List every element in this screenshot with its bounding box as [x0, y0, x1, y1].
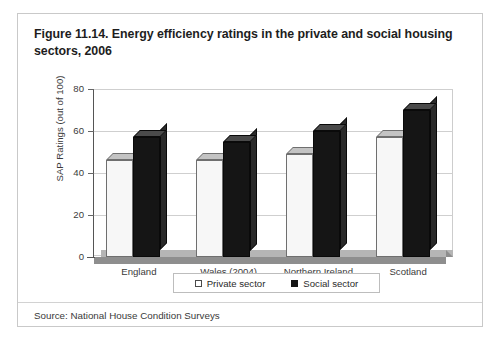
bar-face — [106, 160, 133, 257]
x-axis-line — [87, 257, 95, 258]
plot-floor-front — [94, 257, 446, 264]
chart-legend: Private sectorSocial sector — [173, 273, 380, 293]
bar-northern-ireland-private-sector — [286, 154, 313, 257]
legend-item: Private sector — [195, 278, 266, 289]
legend-label: Private sector — [207, 278, 266, 289]
y-axis-tick — [88, 89, 94, 90]
bar-wales-2004-private-sector — [196, 160, 223, 257]
y-axis-tick — [88, 173, 94, 174]
y-axis-tick — [88, 215, 94, 216]
bar-side — [430, 96, 437, 250]
bar-side — [340, 117, 347, 250]
y-axis-tick-label: 0 — [50, 251, 84, 262]
bar-face — [403, 110, 430, 257]
source-note: Source: National House Condition Surveys — [34, 310, 220, 321]
figure-title: Figure 11.14. Energy efficiency ratings … — [34, 26, 464, 60]
gridline — [94, 89, 453, 90]
bar-face — [196, 160, 223, 257]
bar-wales-2004-social-sector — [223, 142, 250, 258]
bar-northern-ireland-social-sector — [313, 131, 340, 257]
bar-england-social-sector — [133, 137, 160, 257]
figure-container: Figure 11.14. Energy efficiency ratings … — [17, 13, 483, 327]
source-divider — [18, 302, 482, 303]
bar-scotland-social-sector — [403, 110, 430, 257]
bar-scotland-private-sector — [376, 137, 403, 257]
y-axis-tick-label: 20 — [50, 209, 84, 220]
bar-face — [376, 137, 403, 257]
bar-face — [286, 154, 313, 257]
legend-item: Social sector — [291, 278, 358, 289]
y-axis-tick-label: 80 — [50, 83, 84, 94]
bar-england-private-sector — [106, 160, 133, 257]
bar-face — [313, 131, 340, 257]
bar-side — [250, 128, 257, 251]
y-axis-tick-label: 60 — [50, 125, 84, 136]
open-square-icon — [195, 280, 202, 287]
legend-label: Social sector — [303, 278, 358, 289]
bar-face — [133, 137, 160, 257]
y-axis-tick-label: 40 — [50, 167, 84, 178]
y-axis-tick — [88, 131, 94, 132]
filled-square-icon — [291, 280, 298, 287]
plot-floor-side — [446, 250, 453, 257]
bar-face — [223, 142, 250, 258]
bar-chart: SAP Ratings (out of 100) 020406080 Engla… — [18, 66, 482, 271]
bar-side — [160, 123, 167, 250]
